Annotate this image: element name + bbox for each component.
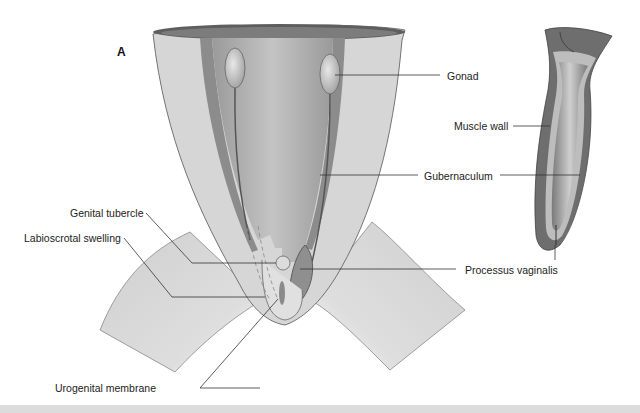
label-gonad: Gonad — [447, 70, 479, 82]
panel-label: A — [117, 45, 126, 59]
inset-tube — [535, 28, 612, 251]
label-muscle-wall: Muscle wall — [454, 120, 508, 132]
label-processus-vaginalis: Processus vaginalis — [465, 264, 558, 276]
label-labioscrotal-swelling: Labioscrotal swelling — [24, 232, 121, 244]
label-genital-tubercle: Genital tubercle — [70, 207, 144, 219]
bottom-strip — [0, 405, 640, 413]
label-urogenital-membrane: Urogenital membrane — [55, 382, 156, 394]
label-gubernaculum: Gubernaculum — [424, 170, 493, 182]
